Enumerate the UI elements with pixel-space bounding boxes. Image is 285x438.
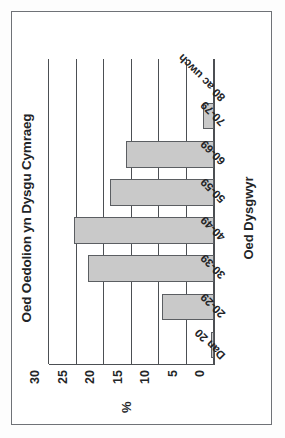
plot-area: 051015202530 [49, 59, 215, 365]
bar-slot [49, 290, 214, 324]
y-tick-label: 10 [138, 370, 152, 404]
x-axis-title: Oed Dysgwyr [241, 15, 256, 421]
y-tick-label: 5 [165, 370, 179, 404]
scanned-page: Oed Oedolion yn Dysgu Cymraeg % 05101520… [0, 0, 285, 438]
figure-frame: Oed Oedolion yn Dysgu Cymraeg % 05101520… [11, 11, 272, 425]
bar-slot [49, 137, 214, 171]
bar-slot [49, 214, 214, 248]
bar-slot [49, 252, 214, 286]
y-tick-label: 15 [110, 370, 124, 404]
bar-slot [49, 176, 214, 210]
y-tick-label: 20 [83, 370, 97, 404]
y-tick-label: 30 [28, 370, 42, 404]
chart-title: Oed Oedolion yn Dysgu Cymraeg [19, 15, 34, 421]
y-tick-label: 0 [193, 370, 207, 404]
bar [87, 256, 214, 282]
rotated-chart-stage: Oed Oedolion yn Dysgu Cymraeg % 05101520… [15, 15, 269, 421]
bar-series [49, 59, 214, 364]
bar [73, 217, 213, 243]
y-tick-label: 25 [55, 370, 69, 404]
bar-slot [49, 99, 214, 133]
bar-slot [49, 328, 214, 362]
